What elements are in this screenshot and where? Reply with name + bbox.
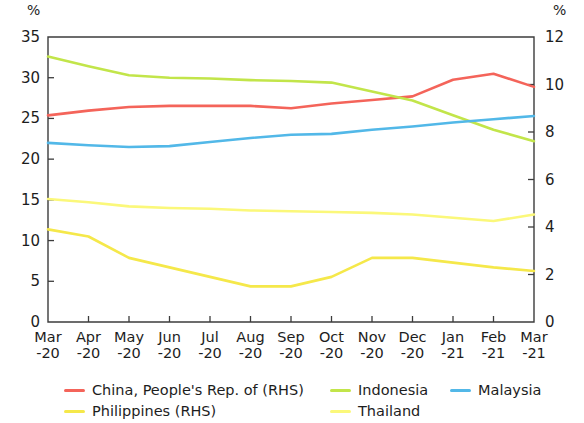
legend-color-swatch [330, 410, 351, 413]
x-tick-month: Mar [511, 329, 557, 345]
x-axis-tick-label: Feb-21 [471, 329, 517, 361]
x-tick-year: -21 [511, 345, 557, 361]
right-axis-tick-label: 10 [545, 76, 577, 94]
series-lines [48, 57, 534, 287]
right-axis-tick-label: 8 [545, 123, 577, 141]
legend-color-swatch [64, 389, 85, 392]
left-axis-tick-label: 35 [8, 28, 40, 46]
x-axis-tick-label: May-20 [106, 329, 152, 361]
x-tick-month: Oct [309, 329, 355, 345]
legend-label: Indonesia [358, 382, 428, 398]
x-axis-tick-label: Mar-20 [25, 329, 71, 361]
x-tick-year: -20 [268, 345, 314, 361]
x-tick-month: Mar [25, 329, 71, 345]
x-tick-year: -20 [228, 345, 274, 361]
left-axis-tick-marks [48, 78, 54, 282]
legend-label: Thailand [358, 403, 420, 419]
x-tick-year: -20 [106, 345, 152, 361]
left-axis-tick-label: 5 [8, 272, 40, 290]
legend-item[interactable]: Thailand [330, 402, 420, 420]
x-tick-month: Jan [430, 329, 476, 345]
x-axis-tick-label: Aug-20 [228, 329, 274, 361]
x-tick-month: Feb [471, 329, 517, 345]
x-tick-year: -20 [390, 345, 436, 361]
legend-color-swatch [450, 389, 471, 392]
legend-color-swatch [64, 410, 85, 413]
series-line [48, 229, 534, 286]
x-axis-tick-label: Dec-20 [390, 329, 436, 361]
x-axis-tick-label: Oct-20 [309, 329, 355, 361]
left-axis-tick-label: 30 [8, 69, 40, 87]
chart-figure: % % 05101520253035 024681012 Mar-20Apr-2… [0, 0, 584, 423]
legend-label: China, People's Rep. of (RHS) [92, 382, 304, 398]
left-axis-tick-label: 25 [8, 109, 40, 127]
x-axis-tick-label: Jul-20 [187, 329, 233, 361]
x-tick-year: -20 [187, 345, 233, 361]
x-tick-year: -21 [430, 345, 476, 361]
left-axis-tick-label: 10 [8, 232, 40, 250]
series-line [48, 116, 534, 147]
x-tick-month: Jul [187, 329, 233, 345]
x-tick-month: Apr [66, 329, 112, 345]
legend-item[interactable]: Philippines (RHS) [64, 402, 216, 420]
x-tick-month: Nov [349, 329, 395, 345]
x-axis-tick-label: Jan-21 [430, 329, 476, 361]
legend-color-swatch [330, 389, 351, 392]
x-axis-tick-label: Nov-20 [349, 329, 395, 361]
x-axis-tick-label: Apr-20 [66, 329, 112, 361]
x-axis-tick-label: Mar-21 [511, 329, 557, 361]
x-tick-month: Sep [268, 329, 314, 345]
left-axis-tick-label: 20 [8, 150, 40, 168]
right-axis-tick-label: 4 [545, 218, 577, 236]
x-tick-month: Aug [228, 329, 274, 345]
x-tick-year: -20 [309, 345, 355, 361]
legend-item[interactable]: Indonesia [330, 381, 428, 399]
legend-item[interactable]: Malaysia [450, 381, 541, 399]
legend-item[interactable]: China, People's Rep. of (RHS) [64, 381, 304, 399]
x-tick-year: -21 [471, 345, 517, 361]
series-line [48, 199, 534, 221]
right-axis-tick-marks [528, 85, 534, 275]
legend-label: Malaysia [478, 382, 541, 398]
x-tick-year: -20 [349, 345, 395, 361]
right-axis-tick-label: 6 [545, 171, 577, 189]
x-axis-tick-label: Sep-20 [268, 329, 314, 361]
series-line [48, 57, 534, 142]
right-axis-tick-label: 12 [545, 28, 577, 46]
x-axis-tick-label: Jun-20 [147, 329, 193, 361]
left-axis-tick-label: 15 [8, 191, 40, 209]
x-tick-month: May [106, 329, 152, 345]
x-tick-month: Jun [147, 329, 193, 345]
right-axis-tick-label: 2 [545, 266, 577, 284]
x-tick-year: -20 [25, 345, 71, 361]
legend-label: Philippines (RHS) [92, 403, 216, 419]
x-tick-year: -20 [147, 345, 193, 361]
x-tick-month: Dec [390, 329, 436, 345]
x-tick-year: -20 [66, 345, 112, 361]
x-axis-tick-marks [89, 316, 494, 322]
